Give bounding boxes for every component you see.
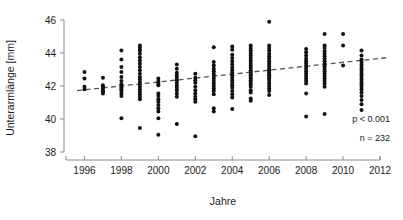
data-point	[360, 49, 364, 53]
data-point	[360, 108, 364, 112]
data-point	[304, 115, 308, 119]
y-axis-tick-label: 46	[45, 15, 57, 26]
x-axis-tick-label: 2006	[258, 165, 281, 176]
data-point	[304, 82, 308, 86]
y-axis-tick-label: 38	[45, 147, 57, 158]
x-axis-tick-label: 1998	[110, 165, 133, 176]
data-point	[156, 116, 160, 120]
data-point	[82, 87, 86, 91]
data-point	[230, 96, 234, 100]
data-point	[341, 32, 345, 36]
scatter-chart: 3840424446 19961998200020022004200620082…	[0, 0, 403, 220]
data-point	[249, 99, 253, 103]
data-point	[323, 112, 327, 116]
sample-size-annotation: n = 232	[360, 133, 390, 143]
data-point	[101, 91, 105, 95]
data-point	[230, 48, 234, 52]
data-point	[119, 116, 123, 120]
data-point	[360, 98, 364, 102]
data-point	[323, 85, 327, 89]
data-point	[138, 126, 142, 130]
data-point	[156, 133, 160, 137]
chart-canvas: 3840424446 19961998200020022004200620082…	[0, 0, 403, 220]
x-axis-title: Jahre	[210, 195, 236, 207]
y-axis-tick-label: 40	[45, 114, 57, 125]
data-point	[119, 70, 123, 74]
data-point	[193, 100, 197, 104]
data-point	[341, 44, 345, 48]
data-point	[82, 77, 86, 81]
data-point	[360, 53, 364, 57]
x-axis-tick-label: 2008	[295, 165, 318, 176]
data-point	[360, 94, 364, 98]
data-point	[360, 102, 364, 106]
x-axis-tick-label: 2012	[369, 165, 392, 176]
data-point	[156, 83, 160, 87]
data-point	[119, 65, 123, 69]
y-axis-tick-label: 44	[45, 48, 57, 59]
x-axis-tick-label: 2004	[221, 165, 244, 176]
data-point	[119, 94, 123, 98]
data-point	[193, 134, 197, 138]
data-point	[267, 93, 271, 97]
data-point	[119, 58, 123, 62]
data-point	[267, 20, 271, 24]
data-point	[249, 91, 253, 95]
data-point	[175, 122, 179, 126]
p-value-annotation: p < 0.001	[352, 114, 390, 124]
x-axis-tick-label: 1996	[73, 165, 96, 176]
data-point	[82, 70, 86, 74]
x-axis-tick-label: 2002	[184, 165, 207, 176]
x-axis-tick-label: 2000	[147, 165, 170, 176]
data-point	[193, 81, 197, 85]
y-axis-tick-label: 42	[45, 81, 57, 92]
data-point	[212, 110, 216, 114]
data-point	[212, 92, 216, 96]
data-point	[175, 67, 179, 71]
data-point	[175, 63, 179, 67]
x-axis-tick-label: 2010	[332, 165, 355, 176]
data-point	[156, 110, 160, 114]
data-point	[341, 63, 345, 67]
data-point	[119, 75, 123, 79]
data-point	[193, 72, 197, 76]
data-point	[323, 32, 327, 36]
y-axis-title: Unterarmlänge [mm]	[4, 40, 16, 136]
data-point	[138, 97, 142, 101]
data-point	[267, 89, 271, 93]
data-point	[304, 91, 308, 95]
data-point	[101, 76, 105, 80]
data-point	[212, 45, 216, 49]
data-point	[119, 49, 123, 53]
data-point	[175, 95, 179, 99]
data-point	[230, 107, 234, 111]
